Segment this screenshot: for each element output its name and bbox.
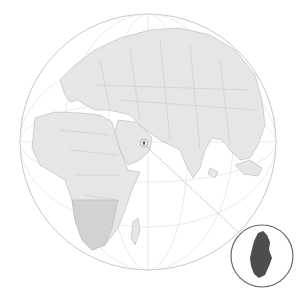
inset (231, 225, 293, 287)
locator-map (0, 0, 304, 297)
qatar-marker (143, 141, 145, 145)
